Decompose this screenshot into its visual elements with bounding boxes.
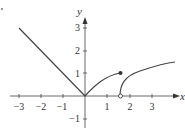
open-point-marker bbox=[119, 94, 123, 98]
x-axis-arrow-icon bbox=[173, 94, 180, 99]
curve-piece-2 bbox=[85, 73, 120, 96]
x-axis: −3 −2 −1 1 2 3 x bbox=[10, 90, 185, 112]
y-axis: 3 2 1 −1 y bbox=[69, 5, 87, 128]
curve-piece-3 bbox=[120, 62, 175, 96]
y-axis-label: y bbox=[76, 5, 82, 17]
y-axis-arrow-icon bbox=[83, 17, 88, 24]
function-graph: −3 −2 −1 1 2 3 x 3 2 1 −1 y bbox=[0, 0, 185, 131]
x-tick-label: 3 bbox=[150, 101, 155, 112]
corner-mark bbox=[1, 8, 3, 10]
curve-piece-1 bbox=[19, 28, 85, 96]
x-tick-label: −3 bbox=[14, 101, 25, 112]
y-tick-label: 1 bbox=[75, 68, 80, 79]
x-tick-label: 2 bbox=[128, 101, 133, 112]
x-tick-label: 1 bbox=[105, 101, 110, 112]
y-tick-label: 2 bbox=[75, 45, 80, 56]
x-axis-label: x bbox=[179, 90, 185, 102]
x-tick-label: −1 bbox=[57, 101, 68, 112]
filled-point-marker bbox=[119, 71, 123, 75]
y-tick-label: −1 bbox=[69, 113, 80, 124]
x-tick-label: −2 bbox=[36, 101, 47, 112]
y-tick-label: 3 bbox=[75, 22, 80, 33]
